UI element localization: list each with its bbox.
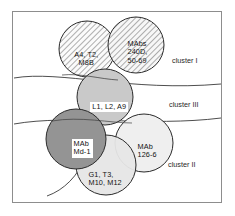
circle-label-a4-t2-m8b: A4, T2, M8B xyxy=(57,42,107,76)
epitope-cluster-figure: A4, T2, M8B MAbs 240D, 50-69 L1, L2, A9 … xyxy=(0,0,235,216)
cluster-label-ii: cluster II xyxy=(168,160,196,169)
circle-label-mab-md-1: MAb Md-1 xyxy=(63,130,103,166)
cluster-label-iii: cluster III xyxy=(169,100,199,109)
circle-label-g1-t3-m10-m12: G1, T3, M10, M12 xyxy=(80,162,138,196)
cluster-label-i: cluster I xyxy=(172,56,198,65)
circle-label-l1-l2-a9: L1, L2, A9 xyxy=(73,93,137,121)
circle-label-mabs-240d: MAbs 240D, 50-69 xyxy=(119,31,165,74)
